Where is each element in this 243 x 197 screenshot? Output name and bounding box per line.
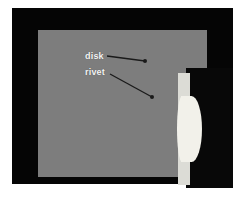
rivet-bulge <box>181 96 202 162</box>
callout-label-rivet: rivet <box>85 67 105 77</box>
specimen-gray-body <box>38 30 207 177</box>
figure-image: disk rivet <box>0 0 243 197</box>
callout-label-disk: disk <box>85 51 104 61</box>
specimen-frame <box>12 8 233 184</box>
